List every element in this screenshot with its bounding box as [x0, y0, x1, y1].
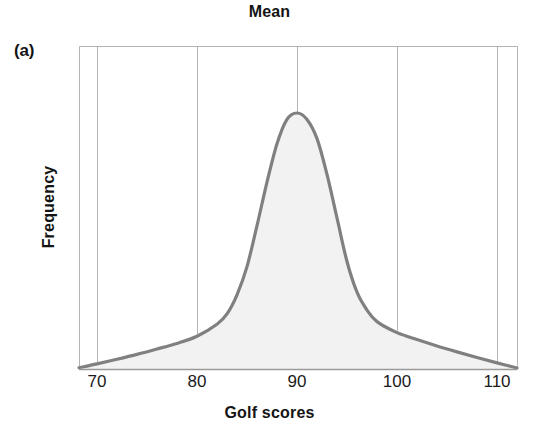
x-tick-label-80: 80 — [165, 372, 229, 392]
x-tick-label-70: 70 — [65, 372, 129, 392]
figure-container: Mean (a) Frequency Golf scores 708090100… — [0, 0, 539, 442]
distribution-area-fill — [79, 113, 517, 369]
x-tick-label-100: 100 — [365, 372, 429, 392]
x-tick-label-90: 90 — [265, 372, 329, 392]
x-tick-label-110: 110 — [465, 372, 529, 392]
